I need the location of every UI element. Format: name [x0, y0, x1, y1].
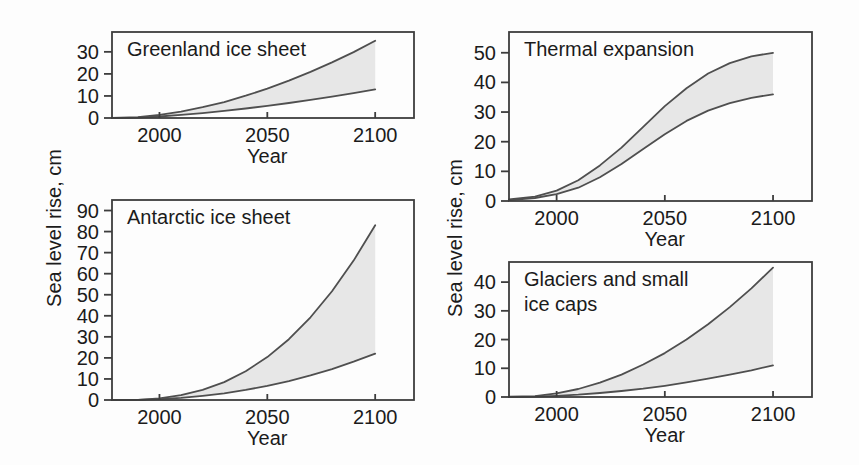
x-tick-label: 2000 [137, 124, 182, 146]
y-tick-label: 20 [77, 347, 99, 369]
y-tick-label: 10 [474, 357, 496, 379]
x-tick-label: 2050 [643, 207, 688, 229]
y-tick-label: 30 [474, 101, 496, 123]
y-tick-label: 60 [77, 263, 99, 285]
x-tick-label: 2100 [751, 207, 796, 229]
chart-glaciers: 010203040200020502100Glaciers and smalli… [474, 262, 812, 446]
x-tick-label: 2100 [353, 406, 398, 428]
y-tick-label: 0 [88, 107, 99, 129]
y-tick-label: 40 [77, 305, 99, 327]
x-tick-label: 2100 [751, 403, 796, 425]
y-tick-label: 30 [77, 41, 99, 63]
x-tick-label: 2000 [137, 406, 182, 428]
x-axis-label: Year [247, 427, 288, 449]
sea-level-rise-figure: Sea level rise, cm Sea level rise, cm 01… [0, 0, 859, 465]
chart-antarctic: 0102030405060708090200020502100Antarctic… [77, 200, 414, 449]
y-tick-label: 90 [77, 200, 99, 222]
chart-title: Thermal expansion [524, 38, 694, 60]
right-y-axis-label: Sea level rise, cm [443, 143, 467, 333]
y-tick-label: 0 [485, 190, 496, 212]
chart-title: Glaciers and small [524, 268, 689, 290]
y-tick-label: 10 [77, 85, 99, 107]
x-tick-label: 2050 [245, 124, 290, 146]
uncertainty-band [509, 53, 773, 200]
x-tick-label: 2050 [643, 403, 688, 425]
y-tick-label: 40 [474, 71, 496, 93]
y-tick-label: 0 [88, 389, 99, 411]
chart-title: Greenland ice sheet [127, 38, 306, 60]
y-tick-label: 40 [474, 271, 496, 293]
y-tick-label: 10 [474, 160, 496, 182]
y-tick-label: 20 [474, 131, 496, 153]
uncertainty-band [112, 225, 375, 400]
x-tick-label: 2100 [353, 124, 398, 146]
y-tick-label: 70 [77, 242, 99, 264]
chart-title: Antarctic ice sheet [127, 206, 291, 228]
y-tick-label: 30 [474, 300, 496, 322]
x-axis-label: Year [247, 145, 288, 167]
chart-thermal: 01020304050200020502100Thermal expansion… [474, 32, 812, 250]
chart-title: ice caps [524, 293, 597, 315]
x-axis-label: Year [645, 424, 686, 446]
y-tick-label: 80 [77, 221, 99, 243]
chart-greenland: 0102030200020502100Greenland ice sheetYe… [77, 32, 414, 167]
y-tick-label: 0 [485, 386, 496, 408]
y-tick-label: 10 [77, 368, 99, 390]
y-tick-label: 30 [77, 326, 99, 348]
x-tick-label: 2050 [245, 406, 290, 428]
y-tick-label: 20 [474, 329, 496, 351]
charts-canvas: 0102030200020502100Greenland ice sheetYe… [0, 0, 859, 465]
left-y-axis-label: Sea level rise, cm [42, 133, 66, 323]
x-axis-label: Year [645, 228, 686, 250]
y-tick-label: 50 [77, 284, 99, 306]
y-tick-label: 20 [77, 63, 99, 85]
y-tick-label: 50 [474, 42, 496, 64]
x-tick-label: 2000 [534, 403, 579, 425]
x-tick-label: 2000 [534, 207, 579, 229]
